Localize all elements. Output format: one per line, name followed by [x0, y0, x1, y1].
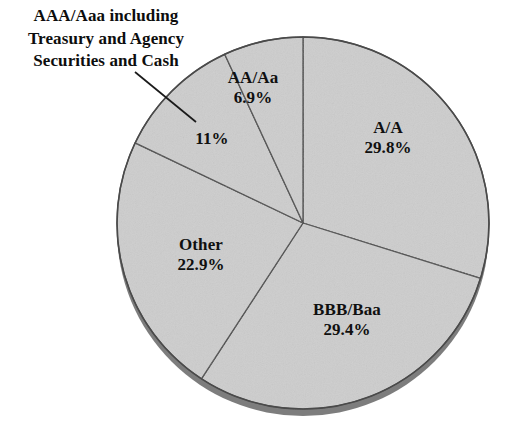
callout-line-1: AAA/Aaa including [0, 5, 212, 28]
callout-line-2: Treasury and Agency [0, 28, 212, 51]
pie-chart: AAA/Aaa including Treasury and Agency Se… [0, 0, 509, 433]
callout-label-aaa: AAA/Aaa including Treasury and Agency Se… [0, 5, 212, 73]
callout-line-3: Securities and Cash [0, 50, 212, 73]
pie-slice-group [117, 37, 489, 409]
